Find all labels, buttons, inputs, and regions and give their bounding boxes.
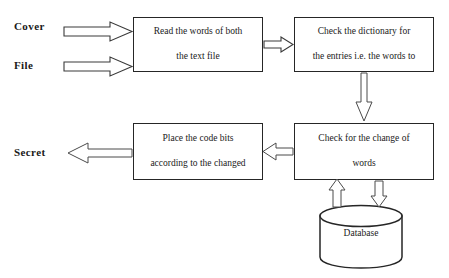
process-box-read: Read the words of both the text file [133, 17, 263, 72]
label-secret: Secret [14, 146, 46, 158]
label-file: File [14, 59, 33, 71]
arrow-dictionary-to-check [356, 73, 372, 121]
database-label: Database [318, 228, 404, 238]
arrow-read-to-dictionary [264, 37, 293, 52]
box-check-line1: Check for the change of [318, 133, 409, 145]
box-place-line1: Place the code bits [163, 133, 234, 145]
process-box-place: Place the code bits according to the cha… [133, 123, 263, 180]
arrow-check-to-place [263, 143, 293, 160]
box-read-line2: the text file [176, 51, 219, 63]
process-box-check: Check for the change of words [294, 123, 434, 180]
box-check-line2: words [352, 158, 375, 170]
box-place-line2: according to the changed [150, 158, 245, 170]
arrow-file-to-read [64, 57, 132, 76]
arrow-place-to-secret [68, 143, 132, 163]
box-dictionary-line2: the entries i.e. the words to [313, 51, 416, 63]
arrow-cover-to-read [64, 22, 132, 41]
process-box-dictionary: Check the dictionary for the entries i.e… [294, 17, 434, 72]
flowchart-canvas: Cover File Secret Read the words of both… [0, 0, 449, 278]
box-read-line1: Read the words of both [154, 26, 243, 38]
label-cover: Cover [14, 20, 45, 32]
box-dictionary-line1: Check the dictionary for [318, 26, 411, 38]
